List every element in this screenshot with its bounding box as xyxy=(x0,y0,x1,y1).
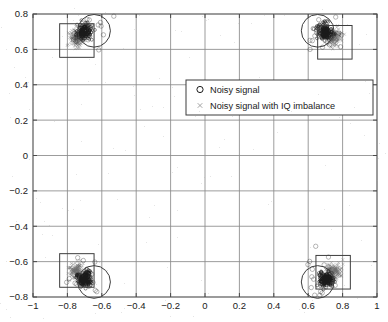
x-tick-label: 0.4 xyxy=(267,300,280,311)
y-tick-label: 0 xyxy=(23,150,28,161)
x-tick-label: −0.2 xyxy=(161,300,180,311)
y-tick-label: 0.2 xyxy=(15,115,28,126)
y-tick-label: −0.4 xyxy=(9,221,28,232)
y-tick-label: 0.4 xyxy=(15,79,28,90)
y-tick-label: 0.6 xyxy=(15,44,28,55)
x-tick-label: 0 xyxy=(202,300,207,311)
y-tick-label: 0.8 xyxy=(15,8,28,19)
x-tick-label: 0.6 xyxy=(302,300,315,311)
scatter-plot: −1−0.8−0.6−0.4−0.200.20.40.60.81−0.8−0.6… xyxy=(0,0,388,322)
x-tick-label: 0.2 xyxy=(233,300,246,311)
legend[interactable]: Noisy signal Noisy signal with IQ imbala… xyxy=(186,80,373,115)
x-tick-label: 0.8 xyxy=(336,300,349,311)
y-tick-label: −0.8 xyxy=(9,291,28,302)
legend-label-noisy-signal-iq-imbalance: Noisy signal with IQ imbalance xyxy=(210,101,335,111)
legend-entry-noisy-signal-iq-imbalance: Noisy signal with IQ imbalance xyxy=(198,101,335,111)
x-tick-label: 1 xyxy=(374,300,379,311)
x-tick-label: −0.8 xyxy=(58,300,77,311)
x-tick-label: −1 xyxy=(28,300,39,311)
constellation-figure: −1−0.8−0.6−0.4−0.200.20.40.60.81−0.8−0.6… xyxy=(0,0,388,322)
y-tick-label: −0.6 xyxy=(9,256,28,267)
x-tick-label: −0.4 xyxy=(127,300,146,311)
legend-label-noisy-signal: Noisy signal xyxy=(210,85,260,95)
y-tick-label: −0.2 xyxy=(9,185,28,196)
x-tick-label: −0.6 xyxy=(92,300,111,311)
